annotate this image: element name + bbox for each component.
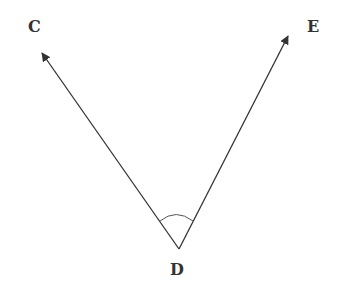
angle-diagram: C E D [0, 0, 339, 299]
diagram-canvas [0, 0, 339, 299]
ray-de [179, 36, 288, 249]
ray-dc [42, 53, 179, 249]
label-d: D [170, 262, 184, 278]
label-e: E [307, 19, 319, 35]
angle-arc [160, 215, 193, 222]
label-c: C [28, 19, 41, 35]
